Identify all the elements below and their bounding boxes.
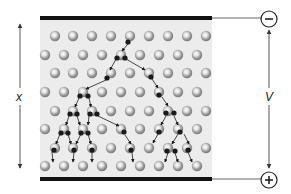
atom <box>78 161 88 171</box>
atom <box>192 50 202 60</box>
electron <box>122 55 127 60</box>
atom <box>144 143 154 153</box>
atom <box>116 161 126 171</box>
thickness-label: x <box>15 90 23 104</box>
atom <box>192 87 202 97</box>
electron <box>156 92 161 97</box>
atom <box>106 143 116 153</box>
atom <box>116 87 126 97</box>
atom <box>192 124 202 134</box>
atom <box>192 161 202 171</box>
atom <box>201 68 211 78</box>
electron <box>77 93 82 98</box>
negative-terminal-icon <box>261 11 277 27</box>
electron <box>177 129 182 134</box>
atom <box>78 50 88 60</box>
electron <box>164 148 169 153</box>
atom <box>201 31 211 41</box>
atom <box>40 124 50 134</box>
electron <box>74 111 79 116</box>
atom <box>125 106 135 116</box>
atom <box>40 87 50 97</box>
atom <box>154 161 164 171</box>
atom <box>135 161 145 171</box>
atom <box>125 31 135 41</box>
electron <box>171 110 176 115</box>
atom <box>59 87 69 97</box>
atom <box>154 50 164 60</box>
electron <box>125 39 130 44</box>
electron <box>89 147 94 152</box>
atom <box>97 87 107 97</box>
positive-terminal-icon <box>261 172 277 188</box>
atom <box>50 31 60 41</box>
atom <box>40 161 50 171</box>
voltage-label: V <box>265 90 274 104</box>
electron <box>67 111 72 116</box>
electron <box>156 129 161 134</box>
electron <box>51 147 56 152</box>
atom <box>50 68 60 78</box>
electron <box>128 147 133 152</box>
atom <box>87 68 97 78</box>
atom <box>201 143 211 153</box>
atom <box>173 161 183 171</box>
atom <box>106 31 116 41</box>
atom <box>144 31 154 41</box>
electron <box>85 130 90 135</box>
atom <box>135 50 145 60</box>
electron <box>94 111 99 116</box>
atom <box>135 124 145 134</box>
atom <box>173 50 183 60</box>
atom <box>173 87 183 97</box>
atom <box>182 106 192 116</box>
atom <box>182 68 192 78</box>
anode-plate <box>40 177 212 181</box>
cathode-plate <box>40 16 212 20</box>
atom <box>59 161 69 171</box>
electron <box>87 111 92 116</box>
electron <box>104 75 109 80</box>
electron <box>185 147 190 152</box>
atom <box>97 124 107 134</box>
atom <box>97 161 107 171</box>
electron <box>114 55 119 60</box>
atom <box>40 50 50 60</box>
atom <box>106 106 116 116</box>
atom <box>97 50 107 60</box>
atom <box>163 68 173 78</box>
electron <box>121 129 126 134</box>
atom <box>87 31 97 41</box>
electron <box>71 147 76 152</box>
atom <box>68 68 78 78</box>
atom <box>68 31 78 41</box>
atom <box>135 87 145 97</box>
atom <box>50 106 60 116</box>
atom <box>163 31 173 41</box>
electron <box>172 148 177 153</box>
electron <box>85 93 90 98</box>
electron <box>148 74 153 79</box>
atom <box>59 50 69 60</box>
electron-avalanche-diagram: V x <box>0 0 291 194</box>
atom <box>144 106 154 116</box>
atom <box>125 68 135 78</box>
electron <box>78 130 83 135</box>
atom <box>201 106 211 116</box>
electron <box>163 110 168 115</box>
electron <box>65 130 70 135</box>
electron <box>58 130 63 135</box>
atom <box>182 31 192 41</box>
